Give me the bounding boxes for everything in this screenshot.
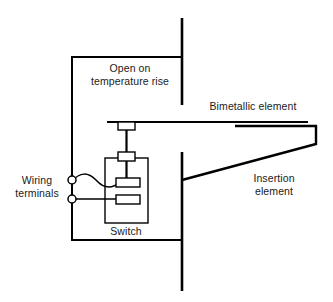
actuator-contact-pad xyxy=(118,152,135,161)
fixed-contact-pad xyxy=(116,195,140,204)
label-switch: Switch xyxy=(98,225,154,238)
label-wiring-terminals: Wiring terminals xyxy=(8,174,66,200)
label-insertion-element: Insertion element xyxy=(234,172,314,198)
thermostat-diagram: Open on temperature rise Bimetallic elem… xyxy=(0,0,333,302)
flexible-wavy-lead xyxy=(72,174,120,187)
wiring-terminal-lower xyxy=(68,195,76,203)
wiring-terminal-upper xyxy=(68,176,76,184)
label-bimetallic-element: Bimetallic element xyxy=(198,100,308,113)
bimetallic-contact-pad xyxy=(118,122,135,130)
diagram-canvas xyxy=(0,0,333,302)
label-open-on-temperature-rise: Open on temperature rise xyxy=(82,62,178,88)
moving-contact-pad xyxy=(116,178,140,187)
